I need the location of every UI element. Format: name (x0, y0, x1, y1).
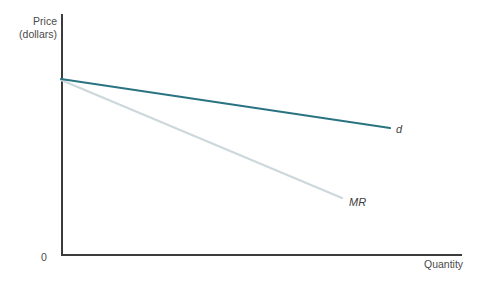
demand-curve (61, 79, 390, 128)
marginal-revenue-curve (61, 80, 342, 198)
economics-line-chart: Price (dollars) Quantity 0 d MR (0, 0, 478, 284)
demand-curve-label: d (396, 123, 402, 135)
plot-area (0, 0, 478, 284)
marginal-revenue-curve-label: MR (349, 196, 366, 208)
